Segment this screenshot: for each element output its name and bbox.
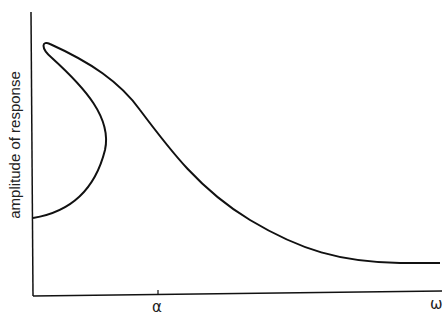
x-axis [33,291,442,296]
response-curve [33,43,440,263]
y-axis [31,12,33,296]
chart-canvas [0,0,448,325]
x-tick-label-alpha: α [152,298,162,316]
x-tick-label-omega: ω [430,295,443,313]
y-axis-label: amplitude of response [6,71,23,219]
